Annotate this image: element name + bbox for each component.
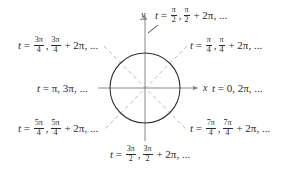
label-right: t = 0, 2π, ... <box>212 83 263 94</box>
x-axis-label: x <box>203 82 207 93</box>
label-top-left: t = 3π4, 3π4 + 2π, ... <box>18 36 98 54</box>
top-label-leader-line <box>148 25 158 33</box>
label-bottom-right: t = 7π4, 7π4 + 2π, ... <box>190 119 270 137</box>
label-left: t = π, 3π, ... <box>37 83 88 94</box>
label-bottom-left: t = 5π4, 5π4 + 2π, ... <box>18 119 98 137</box>
y-axis-label: y <box>141 9 145 20</box>
label-top-right: t = π4, π4 + 2π, ... <box>190 36 262 54</box>
label-bottom: t = 3π2, 3π2 + 2π, ... <box>110 145 190 163</box>
label-top: t = π2, π2 + 2π, ... <box>155 6 227 24</box>
